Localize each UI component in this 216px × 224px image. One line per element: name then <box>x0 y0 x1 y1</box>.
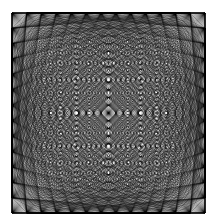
string-art-canvas <box>0 0 216 224</box>
complete-graph-edges <box>12 13 205 213</box>
edge-layer <box>12 13 205 213</box>
string-art-figure: Square Complete-Graph String Art (Mystic… <box>0 0 216 224</box>
